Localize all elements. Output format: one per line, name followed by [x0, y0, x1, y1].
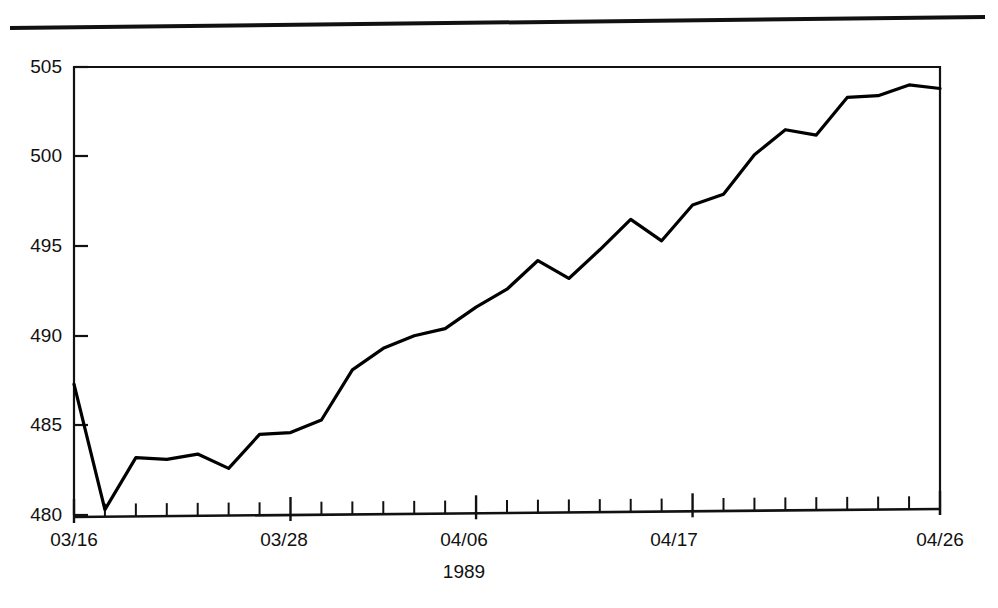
- x-tick-label-0316: 03/16: [29, 530, 119, 549]
- y-tick-label-500: 500: [0, 146, 62, 165]
- line-chart-figure: 505 500 495 490 485 480 03/16 03/28 04/0…: [0, 0, 998, 608]
- chart-plot-area: [0, 0, 998, 608]
- y-tick-label-495: 495: [0, 236, 62, 255]
- data-series-line: [74, 85, 940, 510]
- x-tick-label-0406: 04/06: [419, 530, 509, 549]
- y-tick-label-505: 505: [0, 57, 62, 76]
- y-tick-label-490: 490: [0, 326, 62, 345]
- y-tick-label-485: 485: [0, 415, 62, 434]
- x-tick-label-0328: 03/28: [239, 530, 329, 549]
- x-axis-title: 1989: [384, 562, 544, 581]
- x-tick-label-0426: 04/26: [895, 530, 985, 549]
- x-axis-ticks: [74, 491, 940, 523]
- x-tick-label-0417: 04/17: [629, 530, 719, 549]
- y-tick-label-480: 480: [0, 505, 62, 524]
- y-axis-ticks: [74, 67, 88, 515]
